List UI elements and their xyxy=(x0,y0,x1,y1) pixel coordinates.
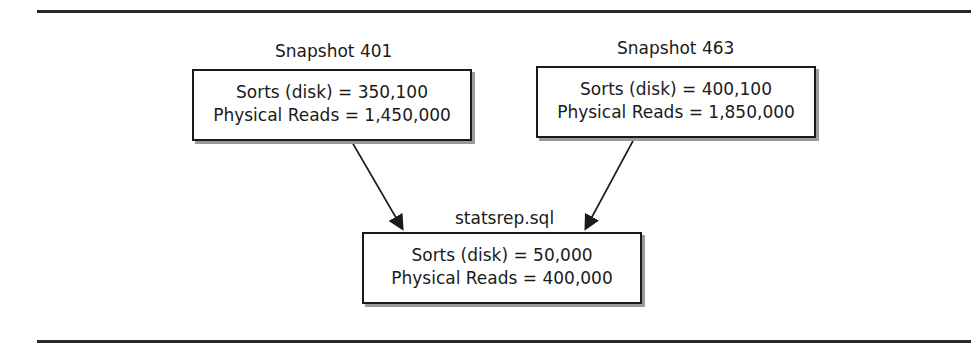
statsrep-reads: Physical Reads = 400,000 xyxy=(364,267,640,290)
snapshot-401-box: Sorts (disk) = 350,100 Physical Reads = … xyxy=(192,69,472,141)
statsrep-sorts: Sorts (disk) = 50,000 xyxy=(364,244,640,267)
snapshot-463-sorts: Sorts (disk) = 400,100 xyxy=(538,78,814,101)
statsrep-box: Sorts (disk) = 50,000 Physical Reads = 4… xyxy=(362,232,642,304)
statsrep-title: statsrep.sql xyxy=(455,208,554,228)
snapshot-463-box: Sorts (disk) = 400,100 Physical Reads = … xyxy=(536,66,816,138)
snapshot-463-title: Snapshot 463 xyxy=(617,38,734,58)
snapshot-463-reads: Physical Reads = 1,850,000 xyxy=(538,101,814,124)
arrow-463-to-statsrep xyxy=(586,139,634,228)
snapshot-401-reads: Physical Reads = 1,450,000 xyxy=(194,104,470,127)
arrow-401-to-statsrep xyxy=(352,142,402,228)
snapshot-401-sorts: Sorts (disk) = 350,100 xyxy=(194,81,470,104)
snapshot-401-title: Snapshot 401 xyxy=(275,41,392,61)
